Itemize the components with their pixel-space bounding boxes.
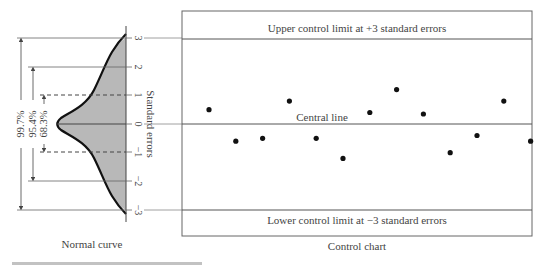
sample-point — [421, 111, 426, 116]
sample-point — [367, 110, 372, 115]
sample-point — [474, 133, 479, 138]
tick-label-0: 0 — [133, 122, 144, 127]
sample-point — [340, 156, 345, 161]
central-line-label: Central line — [296, 111, 348, 123]
tick-label-minus-3: −3 — [133, 205, 144, 216]
axis-label-standard-errors: Standard errors — [145, 90, 157, 158]
interval-99-7-label: 99.7% — [15, 110, 26, 137]
sample-point — [260, 136, 265, 141]
sample-point — [501, 99, 506, 104]
sample-point — [528, 139, 533, 144]
tick-label-minus-2: −2 — [133, 176, 144, 187]
normal-curve-panel: 3 2 1 0 −1 −2 −3 Standard errors 99.7% 9… — [15, 26, 182, 250]
tick-label-2: 2 — [133, 65, 144, 70]
sample-point — [206, 107, 211, 112]
normal-curve-caption: Normal curve — [62, 238, 123, 250]
tick-label-1: 1 — [133, 93, 144, 98]
lower-control-limit-label: Lower control limit at −3 standard error… — [267, 214, 447, 226]
upper-control-limit-label: Upper control limit at +3 standard error… — [268, 22, 447, 34]
interval-95-4-label: 95.4% — [27, 110, 38, 137]
control-chart-caption: Control chart — [328, 240, 386, 252]
sample-point — [287, 99, 292, 104]
figure: 3 2 1 0 −1 −2 −3 Standard errors 99.7% 9… — [0, 0, 550, 265]
control-chart-panel: Upper control limit at +3 standard error… — [182, 11, 533, 252]
sample-point — [314, 136, 319, 141]
tick-label-3: 3 — [133, 36, 144, 41]
sample-point — [394, 87, 399, 92]
sample-point — [233, 139, 238, 144]
interval-68-3-label: 68.3% — [38, 110, 49, 137]
sample-point — [448, 150, 453, 155]
tick-label-minus-1: −1 — [133, 147, 144, 158]
